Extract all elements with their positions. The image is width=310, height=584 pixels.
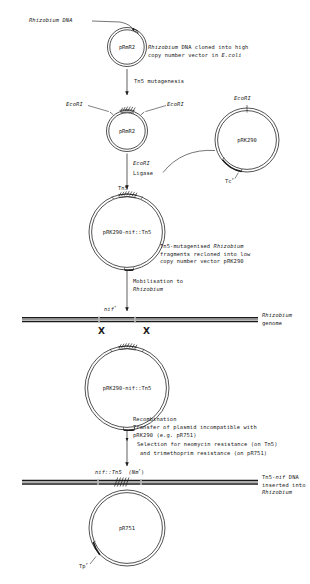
arrow-label-tn5-mutagenesis: Tn5 mutagenesis bbox=[134, 78, 184, 85]
genome-note-rhizobium: Rhizobium bbox=[262, 312, 292, 319]
arrow-label-recombination-line2: Transfer of plasmid incompatible with bbox=[133, 424, 257, 431]
callout-rhizobium-dna: Rhizobium DNA bbox=[29, 17, 73, 24]
site-label-ecori-left: EcoRI bbox=[66, 101, 83, 108]
note-clone-line2: copy number vector in E.coli bbox=[148, 52, 242, 59]
plasmid-label-prk290-nif-tn5-1: pRK290-nif::Tn5 bbox=[87, 229, 167, 236]
marker-label-tp: Tpr bbox=[79, 563, 88, 570]
genome-note-inserted-into: inserted into bbox=[262, 482, 306, 489]
plasmid-label-prk290-nif-tn5-2: pRK290-nif::Tn5 bbox=[87, 385, 167, 392]
arrow-label-recombination-line5: and trimethoprim resistance (on pR751) bbox=[140, 450, 267, 457]
genome-note-genome: genome bbox=[262, 320, 282, 327]
genome-label-nif-plus: nif+ bbox=[104, 306, 116, 313]
arrow-label-mobilisation-line2: Rhizobium bbox=[133, 286, 163, 293]
arrow-label-mobilisation-line1: Mobilisation to bbox=[133, 278, 183, 285]
arrow-label-recombination-line3: pRK290 (e.g. pR751) bbox=[133, 432, 197, 439]
plasmid-label-pr751: pR751 bbox=[103, 525, 151, 532]
arrow-label-recombination-line4: Selection for neomycin resistance (on Tn… bbox=[137, 441, 278, 448]
plasmid-label-prmr2-2: pRmR2 bbox=[103, 128, 151, 135]
site-label-ecori-right: EcoRI bbox=[167, 101, 184, 108]
arrow-label-recombination-line1: Recombination bbox=[133, 416, 177, 423]
crossover-mark-right: X bbox=[143, 327, 150, 336]
note-reclone-line1: Tn5-mutagenised Rhizobium bbox=[160, 243, 244, 250]
plasmid-label-prk290: pRK290 bbox=[223, 137, 271, 144]
site-label-ecori-vector: EcoRI bbox=[234, 95, 251, 102]
arrow-label-ecori: EcoRI bbox=[133, 160, 150, 167]
note-reclone-line2: fragments recloned into low bbox=[160, 251, 250, 258]
genome-note-tn5-nif-dna: Tn5-nif DNA bbox=[262, 474, 299, 481]
genome-note-rhizobium-2: Rhizobium bbox=[262, 489, 292, 496]
note-clone-line1: Rhizobium DNA cloned into high bbox=[148, 44, 248, 51]
arrow-label-ligase: Ligase bbox=[133, 170, 153, 177]
genome-label-nif-tn5-nm: nif::Tn5 (Nmr) bbox=[95, 469, 144, 476]
note-reclone-line3: copy number vector pRK290 bbox=[160, 258, 244, 265]
insert-label-tn5-ligation: Tn5 bbox=[118, 185, 128, 192]
diagram-canvas: Rhizobium DNA pRmR2 Rhizobium DNA cloned… bbox=[0, 0, 310, 584]
crossover-mark-left: X bbox=[98, 327, 105, 336]
plasmid-label-prmr2-1: pRmR2 bbox=[103, 44, 151, 51]
marker-label-tc: Tcr bbox=[225, 178, 234, 185]
